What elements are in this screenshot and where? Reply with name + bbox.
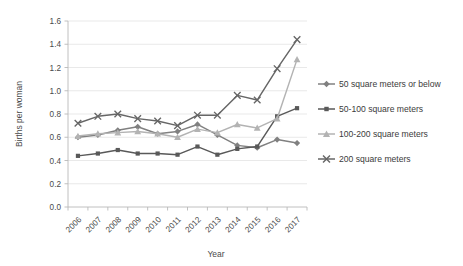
y-tick-label: 0.8 xyxy=(50,110,62,119)
data-point-marker xyxy=(76,154,80,158)
data-point-marker xyxy=(255,144,259,148)
data-point-marker xyxy=(156,151,160,155)
data-point-marker xyxy=(136,151,140,155)
line-chart: 0.00.20.40.60.81.01.21.41.6 200620072008… xyxy=(0,0,463,266)
legend-label: 50 square meters or below xyxy=(339,79,442,89)
legend-label: 100-200 square meters xyxy=(339,129,428,139)
y-tick-label: 0.2 xyxy=(50,180,62,189)
y-tick-label: 1.4 xyxy=(50,40,62,49)
y-tick-label: 1.0 xyxy=(50,87,62,96)
y-tick-label: 0.0 xyxy=(50,203,62,212)
x-axis-title: Year xyxy=(207,249,224,259)
data-point-marker xyxy=(116,148,120,152)
data-point-marker xyxy=(96,151,100,155)
data-point-marker xyxy=(175,153,179,157)
data-point-marker xyxy=(324,107,328,111)
chart-container: 0.00.20.40.60.81.01.21.41.6 200620072008… xyxy=(0,0,463,266)
y-tick-label: 1.6 xyxy=(50,17,62,26)
data-point-marker xyxy=(295,106,299,110)
legend-label: 200 square meters xyxy=(339,154,411,164)
y-axis-title: Births per woman xyxy=(14,81,24,147)
data-point-marker xyxy=(235,147,239,151)
data-point-marker xyxy=(215,153,219,157)
data-point-marker xyxy=(195,144,199,148)
y-tick-label: 0.4 xyxy=(50,157,62,166)
legend-label: 50-100 square meters xyxy=(339,104,423,114)
y-tick-label: 0.6 xyxy=(50,133,62,142)
y-tick-label: 1.2 xyxy=(50,64,62,73)
